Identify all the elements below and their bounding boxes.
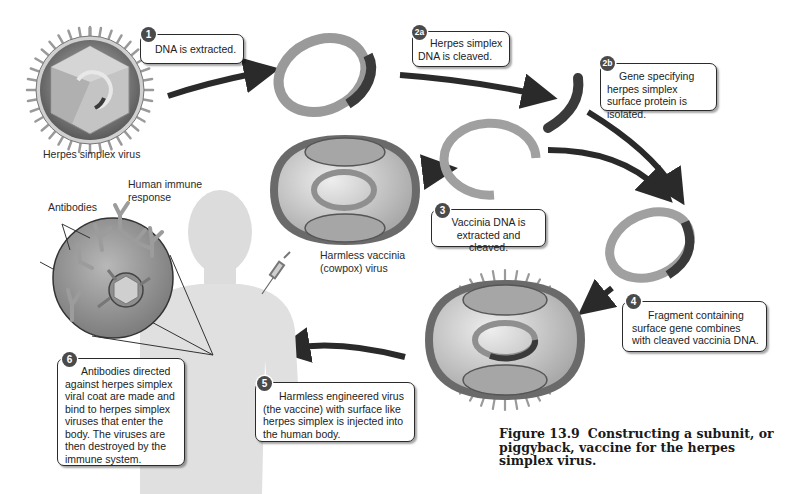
arrow-1	[168, 72, 262, 96]
arrow-3	[423, 170, 440, 172]
engineered-virus-illustration	[425, 270, 585, 410]
immune-response-label-line2: response	[128, 191, 171, 204]
vaccinia-virus-label-line2: (cowpox) virus	[320, 262, 388, 275]
step-5-text: Harmless engineered virus (the vaccine) …	[263, 390, 408, 440]
vaccinia-virus-illustration	[270, 135, 420, 245]
figure-caption: Figure 13.9Constructing a subunit, or pi…	[499, 427, 779, 468]
syringe-icon	[262, 252, 290, 294]
arrow-4	[592, 288, 612, 304]
recombinant-dna-ring	[599, 199, 701, 291]
step-2a-badge: 2a	[412, 25, 427, 40]
step-2b-text: Gene specifying herpes simplex surface p…	[607, 70, 710, 120]
step-2a-text: Herpes simplex DNA is cleaved.	[418, 37, 503, 62]
arrow-2a	[400, 75, 540, 95]
step-5-callout: Harmless engineered virus (the vaccine) …	[255, 382, 415, 442]
herpes-virus-label: Herpes simplex virus	[43, 148, 140, 161]
step-3-text: Vaccinia DNA is extracted and cleaved.	[438, 216, 539, 254]
antibodies-label: Antibodies	[48, 201, 97, 214]
step-6-callout: Antibodies directed against herpes simpl…	[57, 358, 185, 466]
gene-fragment	[548, 78, 578, 128]
step-1-text: DNA is extracted.	[155, 43, 237, 56]
step-5-badge: 5	[257, 376, 272, 391]
arrow-2b-merge	[588, 112, 675, 190]
step-6-text: Antibodies directed against herpes simpl…	[65, 365, 178, 465]
step-1-callout: DNA is extracted.	[140, 34, 244, 64]
immune-response-label-line1: Human immune	[128, 178, 202, 191]
step-2b-callout: Gene specifying herpes simplex surface p…	[600, 63, 717, 111]
step-3-badge: 3	[435, 203, 450, 218]
step-1-badge: 1	[141, 27, 156, 42]
step-4-text: Fragment containing surface gene combine…	[632, 309, 760, 347]
cleaved-vaccinia-ring	[444, 123, 536, 195]
herpes-virus-illustration	[27, 27, 153, 153]
step-2a-callout: Herpes simplex DNA is cleaved.	[412, 31, 510, 67]
vaccinia-virus-label-line1: Harmless vaccinia	[320, 249, 405, 262]
step-2b-badge: 2b	[600, 56, 615, 71]
step-4-badge: 4	[626, 294, 641, 309]
arrow-5	[292, 345, 405, 357]
step-4-callout: Fragment containing surface gene combine…	[622, 301, 767, 352]
herpes-dna-ring	[266, 24, 377, 125]
step-6-badge: 6	[62, 352, 77, 367]
